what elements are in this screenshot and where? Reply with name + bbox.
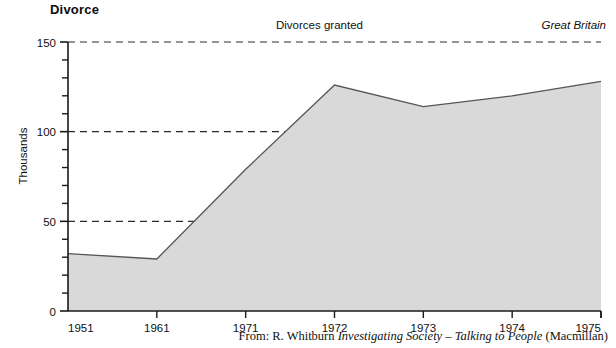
source-note: From: R. Whitburn Investigating Society … [0,329,608,344]
data-area-group [68,81,601,311]
source-work-title: Investigating Society – Talking to Peopl… [338,329,543,343]
plot-area: 050100150 1951196119711972197319741975 [0,0,616,348]
y-tick-label-50: 50 [43,216,56,228]
y-tick-label-0: 0 [50,306,56,318]
y-tick-label-100: 100 [37,126,56,138]
divorce-area-chart-figure: Divorce Divorces granted Great Britain T… [0,0,616,348]
x-axis-ticks [157,311,601,318]
source-publisher: (Macmillan) [542,329,608,343]
y-tick-label-150: 150 [37,37,56,49]
source-prefix: From: R. Whitburn [239,329,338,343]
y-axis-ticks [60,42,68,311]
y-axis-tick-labels: 050100150 [37,37,56,318]
area-fill [68,81,601,311]
